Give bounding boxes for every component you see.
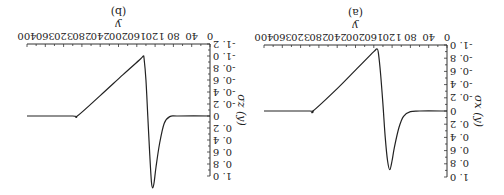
x-tick-label: 120 (146, 31, 165, 42)
x-tick-label: 40 (422, 32, 435, 43)
y-tick-label: 0. 4 (450, 132, 469, 143)
x-tick-label: 320 (54, 31, 73, 42)
y-tick-label: -1. 0 (213, 51, 235, 62)
y-tick-label: -0. 4 (450, 79, 472, 90)
x-tick-label: 200 (346, 32, 365, 43)
y-tick-label: 0 (213, 111, 219, 122)
y-tick-label: 0. 8 (450, 158, 469, 169)
y-tick-label: 0. 8 (213, 159, 232, 170)
x-tick-label: 240 (91, 31, 110, 42)
x-tick-label: 120 (383, 32, 402, 43)
x-axis-label: y (115, 18, 123, 31)
x-tick-label: 40 (185, 31, 198, 42)
x-tick-label: 280 (309, 32, 328, 43)
y-tick-label: -0. 2 (213, 99, 235, 110)
y-tick-label: -1. 0 (450, 40, 472, 51)
y-tick-label: -0. 8 (450, 53, 472, 64)
y-axis-label: σx (y) (472, 95, 485, 127)
x-axis-label: y (352, 19, 360, 32)
y-tick-label: -0. 2 (450, 92, 472, 103)
y-axis-label: σz (y) (235, 94, 248, 126)
x-tick-label: 200 (109, 31, 128, 42)
y-tick-label: -0. 6 (450, 66, 472, 77)
x-tick-label: 160 (127, 31, 146, 42)
chart-panel-b: 04080120160200240280320360400-1. 2-1. 0-… (17, 5, 248, 188)
y-tick-label: 0 (450, 106, 456, 117)
x-tick-label: 320 (291, 32, 310, 43)
y-tick-label: 1. 0 (213, 171, 232, 182)
y-tick-label: 0. 2 (213, 123, 232, 134)
data-curve (264, 49, 447, 170)
figure-canvas: 04080120160200240280320360400-1. 0-0. 8-… (0, 0, 504, 195)
x-tick-label: 360 (36, 31, 55, 42)
x-tick-label: 400 (17, 31, 36, 42)
panel-caption: (a) (348, 6, 363, 19)
y-tick-label: 0. 6 (213, 147, 232, 158)
y-tick-label: -1. 2 (213, 39, 235, 50)
y-tick-label: 0. 6 (450, 145, 469, 156)
y-tick-label: -0. 6 (213, 75, 235, 86)
x-tick-label: 240 (328, 32, 347, 43)
panel-caption: (b) (111, 5, 127, 18)
y-tick-label: 0. 2 (450, 119, 469, 130)
chart-panel-a: 04080120160200240280320360400-1. 0-0. 8-… (254, 6, 485, 183)
x-tick-label: 80 (404, 32, 417, 43)
x-tick-label: 160 (364, 32, 383, 43)
y-tick-label: 1. 0 (450, 172, 469, 183)
y-tick-label: -0. 8 (213, 63, 235, 74)
x-tick-label: 400 (254, 32, 273, 43)
x-tick-label: 80 (167, 31, 180, 42)
data-curve (27, 56, 210, 188)
y-tick-label: 0. 4 (213, 135, 232, 146)
y-tick-label: -0. 4 (213, 87, 235, 98)
figure: 04080120160200240280320360400-1. 0-0. 8-… (0, 0, 504, 195)
x-tick-label: 360 (273, 32, 292, 43)
x-tick-label: 280 (72, 31, 91, 42)
